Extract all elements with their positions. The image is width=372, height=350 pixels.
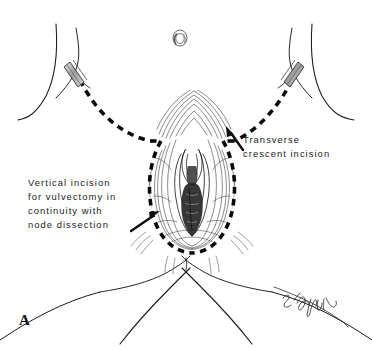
annotation-vertical-incision-vulvectomy: Vertical incision for vulvectomy in cont… bbox=[28, 176, 116, 232]
anatomical-illustration-svg bbox=[0, 0, 372, 350]
annotation-line: Transverse bbox=[243, 133, 330, 147]
annotation-line: Vertical incision bbox=[28, 176, 116, 190]
annotation-line: for vulvectomy in bbox=[28, 190, 116, 204]
illustration-canvas: Transverse crescent incision Vertical in… bbox=[0, 0, 372, 350]
annotation-line: node dissection bbox=[28, 218, 116, 232]
annotation-line: continuity with bbox=[28, 204, 116, 218]
panel-letter: A bbox=[19, 312, 30, 329]
urethral-area bbox=[187, 166, 198, 186]
annotation-line: crescent incision bbox=[243, 147, 330, 161]
annotation-transverse-crescent-incision: Transverse crescent incision bbox=[243, 133, 330, 161]
